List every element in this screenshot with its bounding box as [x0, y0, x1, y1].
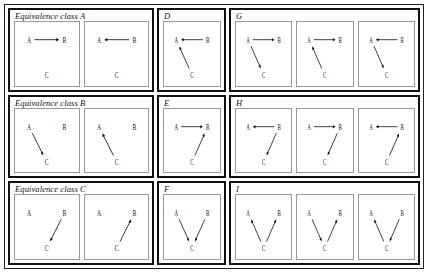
- node-label-c: C: [45, 245, 49, 253]
- group-g[interactable]: GABCABCABC: [229, 8, 420, 92]
- group-d[interactable]: DABC: [157, 8, 226, 92]
- graph-cell[interactable]: ABC: [358, 108, 415, 174]
- node-label-b: B: [206, 36, 210, 44]
- graph-cell[interactable]: ABC: [84, 194, 150, 260]
- graph-cell[interactable]: ABC: [235, 108, 292, 174]
- arrowhead-c-to-b: [202, 133, 204, 137]
- arrowhead-b-to-c: [267, 151, 269, 155]
- node-label-b: B: [277, 122, 281, 130]
- node-label-c: C: [323, 71, 327, 79]
- arrowhead-b-to-a: [376, 38, 379, 42]
- graph-cell[interactable]: ABC: [163, 21, 221, 87]
- edge-line: [179, 220, 188, 240]
- arrowhead-a-to-c: [320, 238, 322, 242]
- graph-canvas: ABC: [236, 109, 291, 173]
- edge-line: [374, 46, 383, 66]
- graph-canvas: ABC: [164, 109, 220, 173]
- node-label-a: A: [369, 122, 373, 130]
- group-label-class-a: Equivalence class A: [13, 11, 150, 21]
- group-class-c[interactable]: Equivalence class CABCABC: [8, 181, 154, 265]
- arrowhead-c-to-b: [335, 220, 337, 224]
- node-label-c: C: [114, 245, 118, 253]
- node-label-c: C: [385, 71, 389, 79]
- node-label-b: B: [63, 36, 67, 44]
- graph-cell[interactable]: ABC: [163, 108, 221, 174]
- node-label-c: C: [323, 244, 327, 252]
- node-label-b: B: [400, 122, 404, 130]
- node-label-a: A: [369, 209, 373, 217]
- node-label-a: A: [246, 35, 250, 43]
- node-label-b: B: [339, 35, 343, 43]
- edge-line: [267, 221, 276, 241]
- graph-canvas: ABC: [15, 109, 79, 173]
- group-label-h: H: [234, 98, 416, 108]
- node-label-b: B: [339, 209, 343, 217]
- graph-canvas: ABC: [15, 22, 79, 86]
- edge-line: [313, 48, 322, 68]
- node-label-c: C: [262, 244, 266, 252]
- node-label-b: B: [63, 209, 67, 217]
- node-label-a: A: [308, 35, 312, 43]
- group-class-b[interactable]: Equivalence class BABCABC: [8, 95, 154, 179]
- group-h[interactable]: HABCABCABC: [229, 95, 420, 179]
- edge-line: [195, 135, 204, 155]
- arrowhead-a-to-b: [333, 125, 336, 129]
- group-cells-class-c: ABCABC: [13, 194, 150, 261]
- graph-cell[interactable]: ABC: [163, 194, 221, 260]
- arrowhead-c-to-a: [179, 46, 181, 50]
- node-label-c: C: [45, 71, 49, 79]
- graph-canvas: ABC: [359, 195, 414, 259]
- edge-line: [389, 135, 398, 155]
- group-e[interactable]: EABC: [157, 95, 226, 179]
- arrowhead-a-to-b: [272, 38, 275, 42]
- figure-grid: Equivalence class AABCABCDABCGABCABCABCE…: [5, 5, 423, 268]
- graph-canvas: ABC: [359, 109, 414, 173]
- figure-row-2: Equivalence class BABCABCEABCHABCABCABC: [8, 95, 420, 179]
- group-f[interactable]: FABC: [157, 181, 226, 265]
- graph-canvas: ABC: [85, 109, 149, 173]
- edge-line: [120, 221, 130, 241]
- group-i[interactable]: IABCABCABC: [229, 181, 420, 265]
- node-label-a: A: [308, 209, 312, 217]
- graph-cell[interactable]: ABC: [84, 21, 150, 87]
- node-label-b: B: [63, 122, 67, 130]
- graph-cell[interactable]: ABC: [358, 21, 415, 87]
- node-label-a: A: [369, 35, 373, 43]
- group-class-a[interactable]: Equivalence class AABCABC: [8, 8, 154, 92]
- graph-cell[interactable]: ABC: [235, 194, 292, 260]
- node-label-c: C: [190, 244, 194, 252]
- arrowhead-a-to-b: [56, 38, 59, 42]
- node-label-b: B: [400, 209, 404, 217]
- graph-cell[interactable]: ABC: [84, 108, 150, 174]
- graph-cell[interactable]: ABC: [235, 21, 292, 87]
- arrowhead-c-to-b: [128, 220, 131, 224]
- edge-line: [103, 135, 113, 155]
- graph-cell[interactable]: ABC: [296, 194, 353, 260]
- node-label-a: A: [96, 36, 100, 44]
- edge-line: [252, 221, 261, 241]
- edge-line: [196, 220, 205, 240]
- group-label-i: I: [234, 184, 416, 194]
- arrowhead-c-to-a: [251, 220, 253, 224]
- arrowhead-c-to-a: [374, 220, 376, 224]
- node-label-c: C: [114, 71, 118, 79]
- graph-cell[interactable]: ABC: [14, 21, 80, 87]
- graph-canvas: ABC: [297, 22, 352, 86]
- group-label-f: F: [162, 184, 222, 194]
- arrowhead-b-to-a: [104, 38, 107, 42]
- graph-cell[interactable]: ABC: [14, 108, 80, 174]
- group-cells-e: ABC: [162, 108, 222, 175]
- graph-cell[interactable]: ABC: [358, 194, 415, 260]
- graph-cell[interactable]: ABC: [14, 194, 80, 260]
- group-cells-i: ABCABCABC: [234, 194, 416, 261]
- arrowhead-b-to-c: [50, 238, 53, 242]
- node-label-c: C: [45, 158, 49, 166]
- edge-line: [390, 220, 399, 240]
- graph-cell[interactable]: ABC: [296, 21, 353, 87]
- group-label-class-b: Equivalence class B: [13, 98, 150, 108]
- node-label-c: C: [385, 158, 389, 166]
- graph-cell[interactable]: ABC: [296, 108, 353, 174]
- arrowhead-b-to-c: [328, 151, 330, 155]
- edge-line: [312, 220, 321, 240]
- arrowhead-a-to-b: [333, 38, 336, 42]
